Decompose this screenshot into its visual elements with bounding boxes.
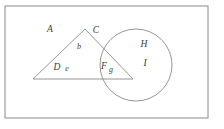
region-label-H: H (140, 39, 149, 49)
triangle-shape (33, 29, 133, 79)
region-label-F: F (100, 61, 107, 71)
label-layer: ACbDeFgHI (46, 24, 148, 74)
diagram-canvas: ACbDeFgHI (0, 0, 224, 129)
region-diagram: ACbDeFgHI (0, 0, 224, 129)
region-label-e: e (65, 64, 69, 73)
region-label-D: D (53, 62, 61, 72)
region-label-g: g (109, 65, 113, 74)
region-label-I: I (142, 58, 147, 68)
region-label-C: C (93, 25, 100, 35)
region-label-b: b (77, 42, 81, 51)
region-label-A: A (46, 24, 53, 34)
